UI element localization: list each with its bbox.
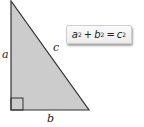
formula-equals: = (106, 29, 114, 40)
formula-exp-b: 2 (101, 31, 105, 38)
formula-exp-c: 2 (122, 31, 126, 38)
formula-exp-a: 2 (78, 31, 82, 38)
side-label-c: c (53, 42, 59, 53)
formula-plus: + (84, 29, 92, 40)
side-label-b: b (47, 113, 54, 124)
triangle-shape (11, 1, 89, 110)
side-label-a: a (2, 49, 9, 60)
right-triangle-figure (0, 0, 144, 127)
pythagorean-formula-box: a2 + b2 = c2 (66, 25, 132, 44)
